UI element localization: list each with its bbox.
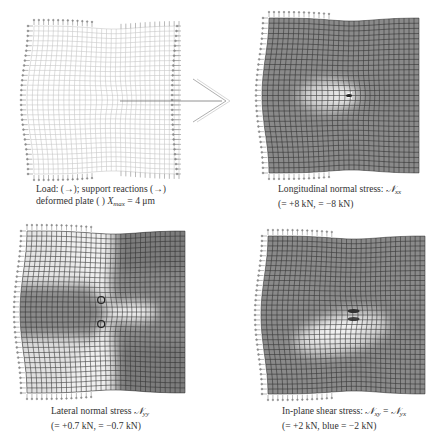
reaction-arrow-head (255, 89, 257, 91)
reaction-arrow-head (26, 224, 28, 226)
reaction-arrow-head (13, 321, 15, 323)
reaction-arrow-head (260, 260, 262, 262)
reaction-arrow-head (20, 245, 22, 247)
reaction-arrow-head (31, 398, 33, 400)
reaction-arrow-head (302, 399, 304, 401)
reaction-arrow-head (292, 229, 294, 231)
reaction-arrow-head (256, 284, 258, 286)
reaction-arrow-head (321, 230, 323, 232)
reaction-arrow-head (36, 398, 38, 400)
reaction-arrow-head (273, 178, 275, 180)
reaction-arrow-head (46, 224, 48, 226)
reaction-arrow-head (254, 304, 256, 306)
reaction-arrow-head (17, 352, 19, 354)
reaction-arrow-head (268, 178, 270, 180)
reaction-arrow-head (256, 74, 258, 76)
lateral-stress-caption: Lateral normal stress 𝒩yy (= +0.7 kN, = … (51, 405, 149, 432)
reaction-arrow-head (17, 271, 19, 273)
reaction-arrow-head (321, 398, 323, 400)
reaction-arrow-head (308, 12, 310, 14)
reaction-arrow-head (20, 240, 22, 242)
reaction-arrow-head (282, 399, 284, 401)
reaction-arrow-head (81, 397, 83, 399)
reaction-arrow-head (20, 235, 22, 237)
shear-stress-panel (255, 228, 435, 400)
reaction-arrow-head (90, 226, 92, 228)
reaction-arrow-head (255, 84, 257, 86)
reaction-arrow-head (260, 43, 262, 45)
reaction-arrow-head (297, 229, 299, 231)
reaction-arrow-head (13, 316, 15, 318)
reaction-arrow-head (262, 17, 264, 19)
reaction-arrow-head (259, 53, 261, 55)
longitudinal-stress-panel (255, 12, 430, 177)
reaction-arrow-head (85, 397, 87, 399)
reaction-arrow-head (257, 69, 259, 71)
caption-line-1: Lateral normal stress 𝒩yy (51, 405, 149, 420)
reaction-arrow-head (268, 11, 270, 13)
reaction-arrow-head (66, 398, 68, 400)
reaction-arrow-head (256, 344, 258, 346)
reaction-arrow-head (326, 231, 328, 233)
reaction-arrow-head (255, 100, 257, 102)
reaction-arrow-head (255, 95, 257, 97)
reaction-arrow-head (262, 167, 264, 169)
reaction-arrow-head (81, 225, 83, 227)
reaction-arrow-head (278, 178, 280, 180)
reaction-arrow-head (254, 319, 256, 321)
reaction-arrow-head (13, 301, 15, 303)
reaction-arrow-head (282, 229, 284, 231)
reaction-arrow-head (316, 398, 318, 400)
reaction-arrow-head (46, 398, 48, 400)
reaction-arrow-head (254, 309, 256, 311)
reaction-arrow-head (41, 398, 43, 400)
reaction-arrow-head (20, 230, 22, 232)
reaction-arrow-head (273, 11, 275, 13)
reaction-arrow-head (323, 13, 325, 15)
reaction-arrow-head (20, 387, 22, 389)
reaction-arrow-head (259, 363, 261, 365)
reaction-arrow-head (16, 347, 18, 349)
reaction-arrow-head (90, 396, 92, 398)
reaction-arrow-head (293, 178, 295, 180)
reaction-arrow-head (258, 58, 260, 60)
shear-stress-contour (255, 228, 435, 400)
lateral-stress-contour (15, 225, 195, 400)
reaction-arrow-head (326, 398, 328, 400)
reaction-arrow-head (262, 22, 264, 24)
reaction-arrow-head (71, 397, 73, 399)
reaction-arrow-head (288, 11, 290, 13)
reaction-arrow-head (331, 397, 333, 399)
reaction-arrow-head (288, 178, 290, 180)
caption-line-2: (= +8 kN, = −8 kN) (278, 198, 401, 210)
reaction-arrow-head (255, 294, 257, 296)
reaction-arrow-head (14, 291, 16, 293)
reaction-arrow-head (254, 314, 256, 316)
reaction-arrow-head (26, 398, 28, 400)
reaction-arrow-head (61, 398, 63, 400)
reaction-arrow-head (318, 177, 320, 179)
reaction-arrow-head (15, 281, 17, 283)
caption-line-2: (= +2 kN, blue = −2 kN) (282, 420, 406, 432)
caption-line-1: Longitudinal normal stress: 𝒩xx (278, 183, 401, 198)
reaction-arrow-head (277, 399, 279, 401)
reaction-arrow-head (259, 265, 261, 267)
reaction-arrow-head (51, 224, 53, 226)
reaction-arrow-head (267, 229, 269, 231)
reaction-arrow-head (260, 373, 262, 375)
reaction-arrow-head (262, 27, 264, 29)
reaction-arrow-head (262, 172, 264, 174)
reaction-arrow-head (277, 229, 279, 231)
reaction-arrow-head (258, 270, 260, 272)
reaction-arrow-head (258, 275, 260, 277)
reaction-arrow-head (287, 399, 289, 401)
reaction-arrow-head (261, 393, 263, 395)
reaction-arrow-head (19, 372, 21, 374)
reaction-arrow-head (323, 177, 325, 179)
reaction-arrow-head (14, 326, 16, 328)
reaction-arrow-head (260, 146, 262, 148)
reaction-arrow-head (261, 235, 263, 237)
reaction-arrow-head (258, 354, 260, 356)
reaction-arrow-head (302, 230, 304, 232)
reaction-arrow-head (41, 224, 43, 226)
